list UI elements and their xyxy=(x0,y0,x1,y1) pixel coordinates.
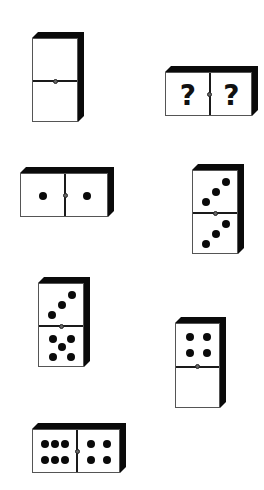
pip-dot xyxy=(222,220,230,228)
pip-dot xyxy=(51,440,59,448)
domino-tile xyxy=(32,32,84,122)
pip-dot xyxy=(103,440,111,448)
domino-half-first xyxy=(33,39,79,81)
pip-dot xyxy=(67,335,75,343)
domino-half-second xyxy=(176,367,221,410)
domino-half-second xyxy=(33,81,79,123)
pip-dot xyxy=(68,291,76,299)
domino-center-pin xyxy=(53,79,58,84)
pip-dot xyxy=(39,192,47,200)
pip-dot xyxy=(212,230,220,238)
domino-half-first xyxy=(33,430,77,474)
domino-face xyxy=(192,170,238,254)
pip-dot xyxy=(67,353,75,361)
pip-dot xyxy=(203,333,211,341)
pip-dot xyxy=(212,188,220,196)
domino-tile xyxy=(175,317,226,408)
domino-tile xyxy=(192,164,244,254)
pip-dot xyxy=(41,456,49,464)
pip-dot xyxy=(186,333,194,341)
domino-center-pin xyxy=(75,449,80,454)
domino-half-second xyxy=(39,326,85,368)
domino-half-second xyxy=(65,174,109,218)
pip-dot xyxy=(87,456,95,464)
pip-dot xyxy=(222,178,230,186)
domino-tile xyxy=(38,277,90,367)
domino-center-pin xyxy=(207,92,212,97)
domino-center-pin xyxy=(213,211,218,216)
pip-dot xyxy=(103,456,111,464)
domino-center-pin xyxy=(195,364,200,369)
pip-dot xyxy=(51,456,59,464)
domino-half-first xyxy=(21,174,65,218)
domino-tile xyxy=(32,423,126,473)
pip-dot xyxy=(58,343,66,351)
pip-dot xyxy=(48,311,56,319)
domino-center-pin xyxy=(59,324,64,329)
pip-dot xyxy=(49,353,57,361)
domino-face xyxy=(175,323,220,408)
pip-dot xyxy=(203,349,211,357)
domino-half-first xyxy=(193,171,239,213)
domino-half-first xyxy=(176,324,221,367)
domino-center-pin xyxy=(63,193,68,198)
pip-dot xyxy=(87,440,95,448)
question-mark-icon: ? xyxy=(166,73,210,117)
domino-tile xyxy=(20,167,114,217)
pip-dot xyxy=(49,335,57,343)
pip-dot xyxy=(61,456,69,464)
domino-half-second: ? xyxy=(210,73,254,117)
domino-unknown: ?? xyxy=(165,66,258,116)
domino-half-first xyxy=(39,284,85,326)
pip-dot xyxy=(202,198,210,206)
pip-dot xyxy=(41,440,49,448)
domino-face xyxy=(38,283,84,367)
domino-face xyxy=(20,173,108,217)
pip-dot xyxy=(61,440,69,448)
domino-half-first: ? xyxy=(166,73,210,117)
domino-face xyxy=(32,429,120,473)
domino-half-second xyxy=(193,213,239,255)
pip-dot xyxy=(186,349,194,357)
pip-dot xyxy=(83,192,91,200)
domino-face xyxy=(32,38,78,122)
pip-dot xyxy=(58,301,66,309)
domino-half-second xyxy=(77,430,121,474)
pip-dot xyxy=(202,240,210,248)
question-mark-icon: ? xyxy=(210,73,254,117)
domino-face: ?? xyxy=(165,72,252,116)
